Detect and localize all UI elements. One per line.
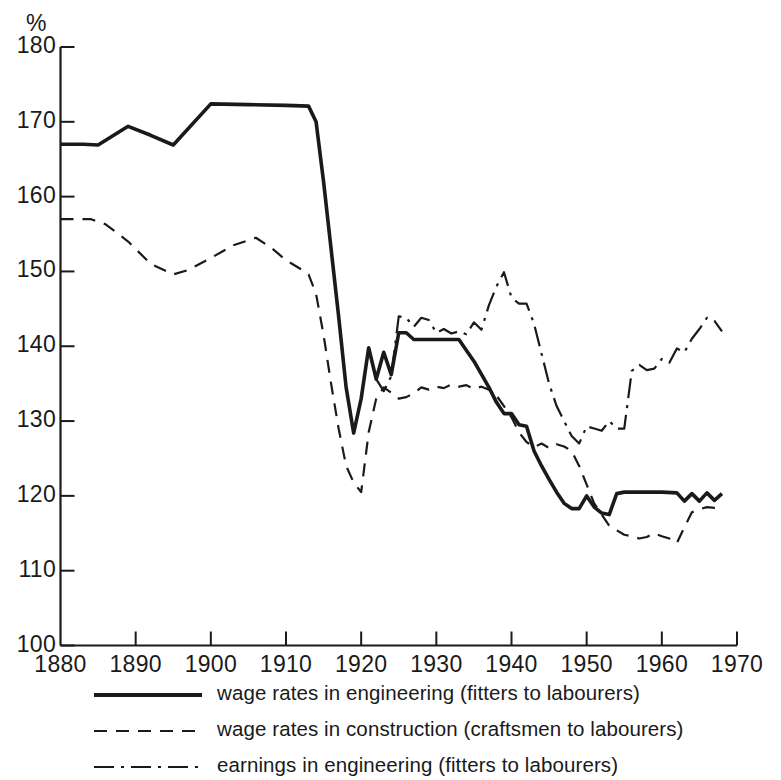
data-series-layer — [61, 104, 722, 543]
y-axis-tick-label: 140 — [0, 331, 56, 358]
y-axis-tick-label: 120 — [0, 481, 56, 508]
y-axis-tick-label: 170 — [0, 107, 56, 134]
x-axis-tick-label: 1970 — [701, 651, 773, 678]
axis-lines — [61, 47, 738, 646]
x-axis-tick-label: 1950 — [551, 651, 623, 678]
x-axis-ticks — [136, 632, 737, 646]
series-line-2 — [61, 219, 722, 543]
solid-line-icon — [92, 684, 204, 706]
y-axis-tick-label: 150 — [0, 256, 56, 283]
y-axis-tick-label: 110 — [0, 556, 56, 583]
series-line-1 — [61, 104, 722, 515]
x-axis-tick-label: 1930 — [400, 651, 472, 678]
x-axis-tick-label: 1890 — [100, 651, 172, 678]
y-axis-tick-label: 160 — [0, 182, 56, 209]
x-axis-tick-label: 1940 — [476, 651, 548, 678]
y-axis-tick-label: 130 — [0, 406, 56, 433]
y-axis-tick-label: 180 — [0, 32, 56, 59]
x-axis-tick-label: 1910 — [250, 651, 322, 678]
x-axis-tick-label: 1920 — [325, 651, 397, 678]
x-axis-tick-label: 1960 — [626, 651, 698, 678]
x-axis-tick-label: 1880 — [25, 651, 97, 678]
legend-item-label: wage rates in engineering (fitters to la… — [217, 681, 640, 705]
y-axis-ticks — [61, 47, 75, 646]
x-axis-tick-label: 1900 — [175, 651, 247, 678]
legend-item-label: wage rates in construction (craftsmen to… — [217, 717, 684, 741]
dashed-line-icon — [92, 720, 204, 742]
series-line-3 — [376, 272, 722, 443]
legend-item-label: earnings in engineering (fitters to labo… — [217, 753, 618, 777]
dash-dot-line-icon — [92, 756, 204, 778]
